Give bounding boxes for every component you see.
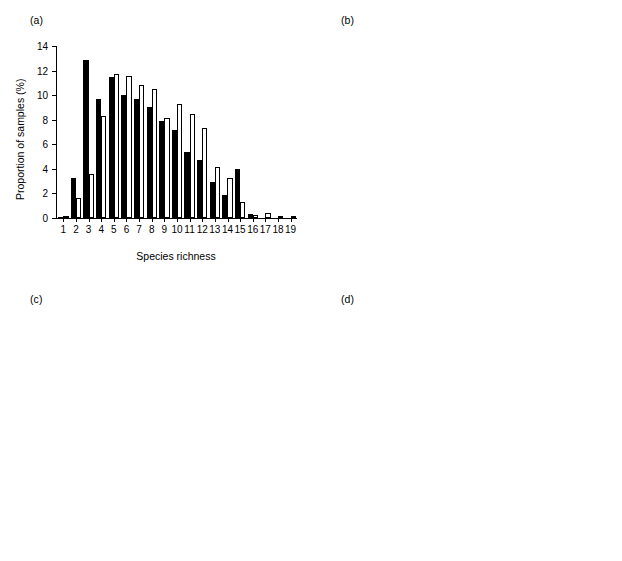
- y-tick-label: 10: [37, 90, 48, 101]
- panel-a-tag: (a): [30, 14, 43, 26]
- bar-open: [215, 167, 220, 218]
- panel-d-tag: (d): [341, 293, 354, 305]
- bar-group: [209, 46, 222, 218]
- bar-open: [126, 76, 131, 218]
- bar-group: [196, 46, 209, 218]
- x-tick-label: 4: [98, 224, 104, 235]
- panel-a-plot-area: 02468101214 1234567891011121314151617181…: [56, 46, 297, 219]
- bar-open: [190, 114, 195, 218]
- x-tick-label: 8: [149, 224, 155, 235]
- panel-d: (d) 010203040 2.557.51012.51517.52022.52…: [311, 281, 622, 561]
- bar-group: [70, 46, 83, 218]
- x-tick-label: 19: [285, 224, 296, 235]
- bar-group: [246, 46, 259, 218]
- x-tick-label: 16: [247, 224, 258, 235]
- x-tick-label: 11: [184, 224, 194, 235]
- y-tick-label: 8: [42, 114, 48, 125]
- panel-c: (c) Proportion of samples (%) 0102030405…: [0, 281, 311, 561]
- x-tick-label: 15: [235, 224, 246, 235]
- x-tick-label: 12: [197, 224, 208, 235]
- bar-group: [133, 46, 146, 218]
- bar-group: [259, 46, 272, 218]
- panel-b: (b) 01020304050 0.20.40.60.81.01.21.41.6…: [311, 0, 622, 280]
- x-tick-label: 13: [209, 224, 220, 235]
- bar-group: [171, 46, 184, 218]
- y-tick-mark: [52, 71, 57, 72]
- bar-group: [95, 46, 108, 218]
- bar-group: [145, 46, 158, 218]
- bar-open: [76, 198, 81, 218]
- x-tick-label: 5: [111, 224, 117, 235]
- bar-group: [120, 46, 133, 218]
- y-tick-label: 4: [42, 163, 48, 174]
- x-tick-label: 1: [61, 224, 67, 235]
- bar-open: [89, 174, 94, 218]
- x-tick-label: 9: [162, 224, 168, 235]
- bar-group: [221, 46, 234, 218]
- bar-open: [227, 178, 232, 218]
- y-tick-mark: [52, 169, 57, 170]
- y-tick-label: 14: [37, 41, 48, 52]
- x-tick-label: 7: [136, 224, 142, 235]
- bar-open: [101, 116, 106, 218]
- y-tick-label: 12: [37, 65, 48, 76]
- bar-open: [114, 74, 119, 218]
- x-tick-label: 14: [222, 224, 233, 235]
- x-tick-label: 18: [272, 224, 283, 235]
- bar-open: [202, 128, 207, 218]
- x-tick-label: 10: [171, 224, 182, 235]
- panel-b-tag: (b): [341, 14, 354, 26]
- x-tick-label: 17: [260, 224, 271, 235]
- bar-open: [152, 89, 157, 218]
- bar-open: [164, 118, 169, 218]
- y-tick-mark: [52, 144, 57, 145]
- y-tick-mark: [52, 120, 57, 121]
- x-tick-label: 2: [73, 224, 79, 235]
- bar-group: [82, 46, 95, 218]
- y-tick-label: 2: [42, 188, 48, 199]
- panel-c-tag: (c): [30, 293, 43, 305]
- bar-open: [139, 85, 144, 218]
- panel-a-bars: [57, 46, 297, 218]
- y-tick-mark: [52, 193, 57, 194]
- panel-a: (a) Proportion of samples (%) 0246810121…: [0, 0, 311, 280]
- bar-open: [240, 202, 245, 218]
- bar-group: [108, 46, 121, 218]
- panel-a-x-axis-title: Species richness: [56, 250, 296, 262]
- y-tick-mark: [52, 95, 57, 96]
- bar-group: [284, 46, 297, 218]
- bar-group: [234, 46, 247, 218]
- figure-root: (a) Proportion of samples (%) 0246810121…: [0, 0, 622, 561]
- bar-group: [183, 46, 196, 218]
- y-tick-mark: [52, 46, 57, 47]
- panel-a-y-axis-title: Proportion of samples (%): [14, 79, 26, 200]
- bar-group: [57, 46, 70, 218]
- x-tick-label: 6: [124, 224, 130, 235]
- y-tick-label: 6: [42, 139, 48, 150]
- y-tick-label: 0: [42, 213, 48, 224]
- bar-group: [158, 46, 171, 218]
- bar-open: [177, 104, 182, 218]
- x-tick-label: 3: [86, 224, 92, 235]
- bar-group: [272, 46, 285, 218]
